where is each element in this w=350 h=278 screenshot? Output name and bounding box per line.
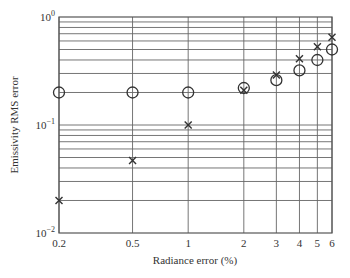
- y-tick-label: 10−1: [35, 117, 55, 131]
- grid-lines: [59, 17, 332, 233]
- x-tick-label: 3: [274, 237, 280, 249]
- x-axis-label: Radiance error (%): [153, 254, 238, 267]
- x-tick-label: 0.5: [126, 237, 140, 249]
- y-axis-ticks: 10010−110−2: [35, 9, 55, 239]
- x-tick-label: 4: [297, 237, 303, 249]
- data-points: [54, 34, 338, 204]
- x-tick-label: 1: [185, 237, 191, 249]
- x-tick-label: 0.2: [52, 237, 66, 249]
- x-tick-label: 2: [241, 237, 247, 249]
- scatter-plot: 0.20.5123456 10010−110−2 Radiance error …: [0, 0, 350, 278]
- chart: 0.20.5123456 10010−110−2 Radiance error …: [0, 0, 350, 278]
- x-tick-label: 6: [329, 237, 335, 249]
- x-axis-ticks: 0.20.5123456: [52, 237, 335, 249]
- y-axis-label: Emissivity RMS error: [8, 76, 20, 174]
- x-tick-label: 5: [315, 237, 321, 249]
- y-tick-label: 100: [40, 9, 55, 23]
